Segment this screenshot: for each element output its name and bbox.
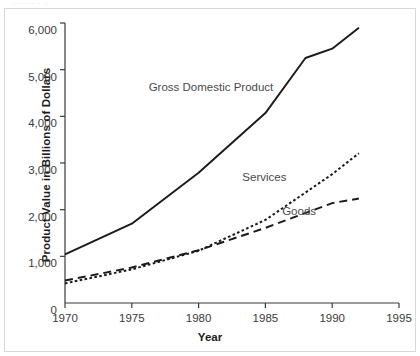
series-label-services: Services (242, 171, 286, 183)
x-axis-tick-label: 1995 (374, 312, 420, 324)
x-axis-tick-label: 1980 (174, 312, 224, 324)
y-axis-tick-label: 2,000 (3, 211, 57, 223)
chart-frame: Product Value in Billions of Dollars 01,… (4, 8, 416, 352)
series-label-gross-domestic-product: Gross Domestic Product (149, 81, 274, 93)
y-axis-tick-label: 4,000 (3, 117, 57, 129)
x-axis-tick-label: 1990 (307, 312, 357, 324)
series-label-goods: Goods (282, 205, 316, 217)
x-axis-tick-label: 1970 (40, 312, 90, 324)
y-axis-tick-label: 6,000 (3, 24, 57, 36)
chart-figure: ........ . .. Product Value in Billions … (0, 0, 420, 356)
x-axis-tick-label: 1985 (240, 312, 290, 324)
x-axis-tick-label: 1975 (107, 312, 157, 324)
x-axis-title: Year (0, 331, 420, 343)
series-line-services (65, 153, 359, 283)
y-axis-tick-label: 1,000 (3, 257, 57, 269)
series-line-gross-domestic-product (65, 28, 359, 255)
line-chart-plot (5, 9, 415, 351)
y-axis-tick-label: 5,000 (3, 71, 57, 83)
y-axis-tick-label: 3,000 (3, 164, 57, 176)
cropped-header-text: ........ . .. (0, 0, 420, 7)
